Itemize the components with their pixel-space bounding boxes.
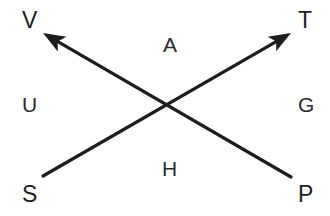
diagram-canvas: V T S P A U G H [0,0,330,216]
region-label-g: G [298,94,314,115]
vertex-label-s: S [22,183,37,206]
vertex-label-v: V [22,9,37,32]
vertex-label-p: P [298,183,313,206]
arrow-S-to-T-head [268,33,291,51]
arrow-P-to-V-head [43,33,66,51]
region-label-u: U [22,94,37,115]
arrow-S-to-T-shaft [43,40,279,176]
vertex-label-t: T [298,9,312,32]
region-label-h: H [162,158,177,179]
region-label-a: A [163,34,177,55]
